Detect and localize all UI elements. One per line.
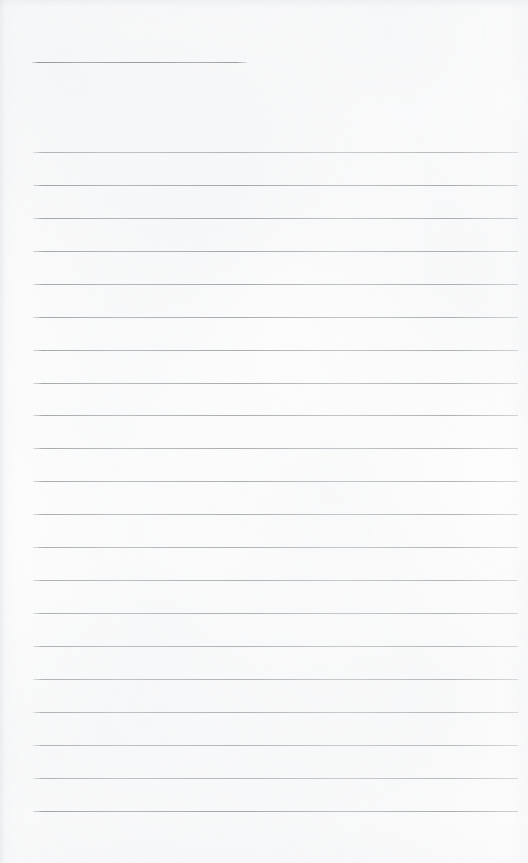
ruled-line <box>33 811 518 812</box>
ruled-line <box>33 218 518 219</box>
ruled-line <box>33 712 518 713</box>
ruled-line <box>33 745 518 746</box>
ruled-lines-layer <box>0 0 528 863</box>
title-rule <box>32 62 247 63</box>
ruled-line <box>33 481 518 482</box>
ruled-line <box>33 613 518 614</box>
ruled-line <box>33 350 518 351</box>
ruled-line <box>33 514 518 515</box>
ruled-line <box>33 547 518 548</box>
ruled-line <box>33 679 518 680</box>
ruled-line <box>33 152 518 153</box>
ruled-line <box>33 415 518 416</box>
ruled-line <box>33 580 518 581</box>
ruled-line <box>33 383 518 384</box>
ruled-line <box>33 251 518 252</box>
notepaper-page <box>0 0 528 863</box>
ruled-line <box>33 284 518 285</box>
ruled-line <box>33 317 518 318</box>
ruled-line <box>33 778 518 779</box>
ruled-line <box>33 185 518 186</box>
ruled-line <box>33 448 518 449</box>
ruled-line <box>33 646 518 647</box>
